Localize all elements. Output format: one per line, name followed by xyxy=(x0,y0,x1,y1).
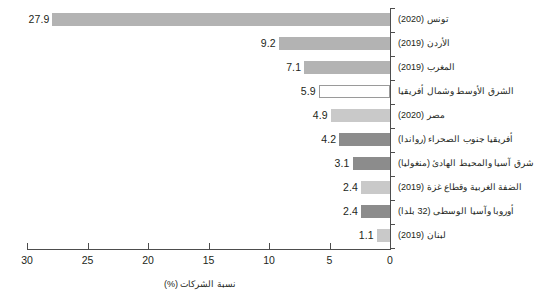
value-tick-label: 10 xyxy=(254,254,284,266)
category-label: مصر (2020) xyxy=(398,106,445,124)
bar-value-label: 7.1 xyxy=(261,59,301,75)
bar-row: 7.1المغرب (2019) xyxy=(0,56,529,80)
value-tick-label: 30 xyxy=(12,254,42,266)
category-label: المغرب (2019) xyxy=(398,58,455,76)
category-tick xyxy=(390,200,395,201)
value-tick-label: 20 xyxy=(133,254,163,266)
bar-row: 27.9تونس (2020) xyxy=(0,8,529,32)
bar-row: 2.4أوروبا وآسيا الوسطى (32 بلدا) xyxy=(0,200,529,224)
x-axis-title: نسبة الشركات (%) xyxy=(0,279,400,289)
bar xyxy=(339,133,390,146)
value-tick xyxy=(209,243,210,250)
value-tick-label: 0 xyxy=(375,254,405,266)
category-tick xyxy=(390,80,395,81)
value-tick-label: 5 xyxy=(315,254,345,266)
bar-value-label: 3.1 xyxy=(309,155,349,171)
bar-value-label: 4.2 xyxy=(296,131,336,147)
category-tick xyxy=(390,8,395,9)
value-tick-label: 25 xyxy=(73,254,103,266)
category-tick xyxy=(390,128,395,129)
bar xyxy=(279,37,390,50)
bar xyxy=(52,13,390,26)
category-tick xyxy=(390,152,395,153)
bar-row: 4.2أفريقيا جنوب الصحراء (رواندا) xyxy=(0,128,529,152)
bar xyxy=(331,109,390,122)
bar xyxy=(353,157,391,170)
bar-value-label: 4.9 xyxy=(288,107,328,123)
category-label: لبنان (2019) xyxy=(398,226,446,244)
bar-value-label: 1.1 xyxy=(334,227,374,243)
value-tick xyxy=(148,243,149,250)
bar-value-label: 5.9 xyxy=(276,83,316,99)
value-tick xyxy=(330,243,331,250)
category-label: الشرق الأوسط وشمال أفريقيا xyxy=(398,82,514,100)
value-tick xyxy=(88,243,89,250)
bar-row: 2.4الضفة الغربية وقطاع غزة (2019) xyxy=(0,176,529,200)
bar-value-label: 27.9 xyxy=(9,11,49,27)
category-tick xyxy=(390,176,395,177)
bar-row: 9.2الأردن (2019) xyxy=(0,32,529,56)
bar-value-label: 2.4 xyxy=(318,179,358,195)
bar xyxy=(361,205,390,218)
bar xyxy=(361,181,390,194)
value-tick xyxy=(27,243,28,250)
bar xyxy=(304,61,390,74)
plot-area: 27.9تونس (2020)9.2الأردن (2019)7.1المغرب… xyxy=(0,8,529,248)
category-tick xyxy=(390,224,395,225)
bar-row: 3.1شرق آسيا والمحيط الهادئ (منغوليا) xyxy=(0,152,529,176)
category-label: أفريقيا جنوب الصحراء (رواندا) xyxy=(398,130,514,148)
category-label: الضفة الغربية وقطاع غزة (2019) xyxy=(398,178,522,196)
value-tick xyxy=(269,243,270,250)
bar-row: 5.9الشرق الأوسط وشمال أفريقيا xyxy=(0,80,529,104)
category-tick xyxy=(390,104,395,105)
category-label: أوروبا وآسيا الوسطى (32 بلدا) xyxy=(398,202,514,220)
bar-row: 1.1لبنان (2019) xyxy=(0,224,529,248)
bar xyxy=(319,85,390,98)
category-tick xyxy=(390,32,395,33)
bar-row: 4.9مصر (2020) xyxy=(0,104,529,128)
bar xyxy=(377,229,390,242)
value-tick xyxy=(390,243,391,250)
category-tick xyxy=(390,56,395,57)
category-label: تونس (2020) xyxy=(398,10,449,28)
value-tick-label: 15 xyxy=(194,254,224,266)
category-label: شرق آسيا والمحيط الهادئ (منغوليا) xyxy=(398,154,534,172)
category-label: الأردن (2019) xyxy=(398,34,450,52)
bar-value-label: 9.2 xyxy=(236,35,276,51)
bar-value-label: 2.4 xyxy=(318,203,358,219)
